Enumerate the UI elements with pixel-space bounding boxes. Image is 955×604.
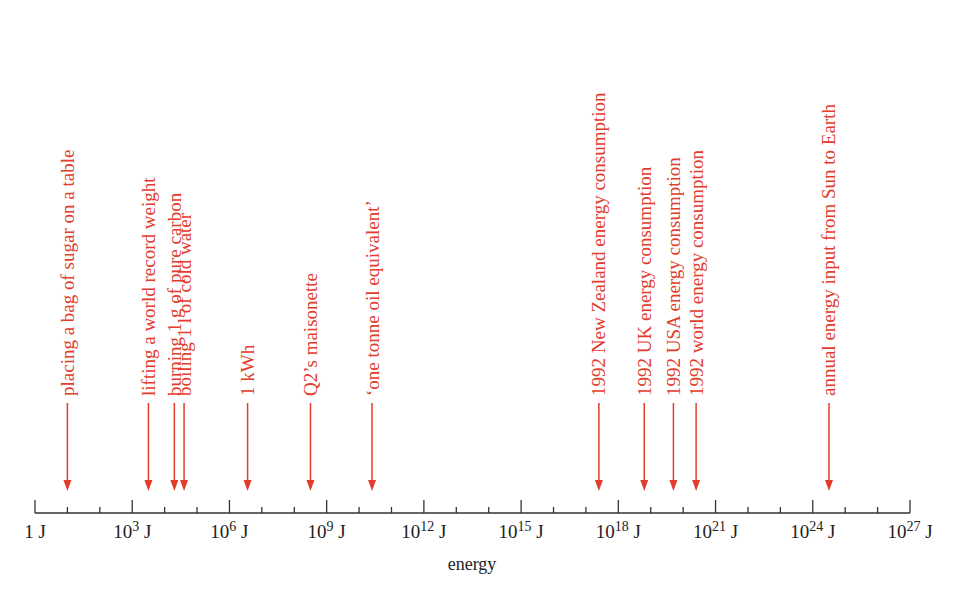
- tick-label: 1027 J: [887, 519, 932, 542]
- annotation-label: lifting a world record weight: [138, 177, 159, 396]
- annotation-label: 1992 New Zealand energy consumption: [588, 92, 609, 396]
- annotation-marker: 1992 New Zealand energy consumption: [588, 92, 609, 491]
- tick-label: 1012 J: [401, 519, 446, 542]
- annotation-marker: placing a bag of sugar on a table: [57, 150, 78, 491]
- arrow-head-icon: [825, 480, 833, 491]
- annotation-marker: boiling 1 l of cold water: [174, 212, 195, 491]
- tick-group: 1 J103 J106 J109 J1012 J1015 J1018 J1021…: [24, 500, 932, 542]
- arrow-head-icon: [640, 480, 648, 491]
- arrow-head-icon: [144, 480, 152, 491]
- annotation-marker: 1 kWh: [237, 344, 258, 491]
- arrow-head-icon: [244, 480, 252, 491]
- annotation-label: Q2’s maisonette: [300, 273, 321, 396]
- tick-label: 106 J: [210, 519, 248, 542]
- axis-title: energy: [448, 554, 497, 574]
- annotation-label: boiling 1 l of cold water: [174, 212, 195, 396]
- annotation-marker: 1992 world energy consumption: [686, 149, 707, 491]
- annotation-label: 1992 USA energy consumption: [663, 157, 684, 396]
- tick-label: 1018 J: [596, 519, 641, 542]
- arrow-head-icon: [692, 480, 700, 491]
- annotation-label: placing a bag of sugar on a table: [57, 150, 78, 396]
- arrow-head-icon: [368, 480, 376, 491]
- arrow-head-icon: [180, 480, 188, 491]
- tick-label: 109 J: [308, 519, 346, 542]
- tick-label: 1021 J: [693, 519, 738, 542]
- arrow-head-icon: [669, 480, 677, 491]
- annotation-label: ‘one tonne oil equivalent’: [362, 200, 383, 396]
- annotation-label: annual energy input from Sun to Earth: [818, 104, 839, 396]
- energy-scale-diagram: placing a bag of sugar on a tablelifting…: [0, 0, 955, 604]
- annotation-label: 1992 world energy consumption: [686, 149, 707, 396]
- tick-label: 1 J: [24, 521, 46, 542]
- arrow-head-icon: [306, 480, 314, 491]
- tick-label: 1015 J: [499, 519, 544, 542]
- annotations-group: placing a bag of sugar on a tablelifting…: [57, 92, 840, 491]
- annotation-marker: ‘one tonne oil equivalent’: [362, 200, 383, 491]
- arrow-head-icon: [63, 480, 71, 491]
- annotation-marker: annual energy input from Sun to Earth: [818, 104, 839, 491]
- annotation-label: 1 kWh: [237, 344, 258, 396]
- annotation-label: 1992 UK energy consumption: [634, 166, 655, 396]
- arrow-head-icon: [170, 480, 178, 491]
- annotation-marker: 1992 USA energy consumption: [663, 157, 684, 491]
- tick-label: 103 J: [113, 519, 151, 542]
- annotation-marker: Q2’s maisonette: [300, 273, 321, 491]
- annotation-marker: lifting a world record weight: [138, 177, 159, 491]
- arrow-head-icon: [595, 480, 603, 491]
- annotation-marker: 1992 UK energy consumption: [634, 166, 655, 491]
- tick-label: 1024 J: [790, 519, 835, 542]
